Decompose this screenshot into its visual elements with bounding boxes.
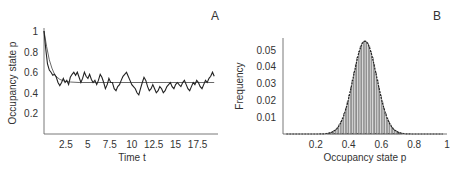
panel-a-x-tick-label: 7.5 bbox=[103, 139, 117, 150]
histogram-bar bbox=[373, 65, 375, 134]
panel-a-x-tick-label: 15 bbox=[170, 139, 182, 150]
histogram-bar bbox=[385, 113, 387, 134]
panel-b-y-tick-label: 0.01 bbox=[257, 112, 277, 123]
panel-a-chart: A 0.20.40.60.81 2.557.51012.51517.5 Time… bbox=[7, 9, 219, 163]
panel-a-x-label: Time t bbox=[118, 152, 146, 163]
panel-a-x-tick-label: 12.5 bbox=[144, 139, 164, 150]
histogram-bar bbox=[349, 95, 351, 134]
histogram-bar bbox=[360, 47, 362, 134]
histogram-bar bbox=[335, 129, 337, 134]
panel-b-chart: B 0.010.020.030.040.05 0.20.40.60.81 Occ… bbox=[234, 9, 450, 163]
histogram-bar bbox=[358, 51, 360, 134]
histogram-bar bbox=[363, 41, 365, 134]
histogram-bar bbox=[380, 95, 382, 134]
panel-a-x-tick-label: 5 bbox=[85, 139, 91, 150]
panel-a-y-tick-label: 0.6 bbox=[24, 67, 38, 78]
histogram-bar bbox=[355, 65, 357, 134]
panel-a-x-ticks: 2.557.51012.51517.5 bbox=[59, 139, 208, 150]
panel-b-x-tick-label: 1 bbox=[444, 139, 450, 150]
panel-a-y-tick-label: 0.8 bbox=[24, 47, 38, 58]
figure: A 0.20.40.60.81 2.557.51012.51517.5 Time… bbox=[0, 0, 455, 173]
histogram-bar bbox=[357, 58, 359, 134]
panel-b-x-label: Occupancy state p bbox=[324, 152, 407, 163]
panel-a-x-tick-label: 17.5 bbox=[188, 139, 208, 150]
panel-b-x-ticks: 0.20.40.60.81 bbox=[309, 139, 450, 150]
panel-b-x-tick-label: 0.6 bbox=[374, 139, 388, 150]
panel-b-x-tick-label: 0.2 bbox=[309, 139, 323, 150]
panel-a-mean-line bbox=[44, 31, 214, 83]
histogram-bar bbox=[378, 88, 380, 134]
histogram-bar bbox=[381, 102, 383, 134]
panel-b-x-tick-label: 0.4 bbox=[342, 139, 356, 150]
histogram-bar bbox=[354, 72, 356, 134]
panel-a-y-label: Occupancy state p bbox=[7, 41, 18, 124]
histogram-bar bbox=[375, 72, 377, 134]
panel-b-y-tick-label: 0.04 bbox=[257, 61, 277, 72]
panel-b-x-tick-label: 0.8 bbox=[407, 139, 421, 150]
panel-b-y-label: Frequency bbox=[234, 62, 245, 109]
histogram-bar bbox=[368, 47, 370, 134]
histogram-bar bbox=[347, 102, 349, 134]
histogram-bar bbox=[370, 51, 372, 134]
panel-a-label: A bbox=[211, 9, 219, 23]
histogram-bar bbox=[365, 41, 367, 134]
panel-b-label: B bbox=[433, 9, 441, 23]
histogram-bar bbox=[376, 80, 378, 134]
panel-a-x-tick-label: 10 bbox=[126, 139, 138, 150]
panel-a-x-tick-label: 2.5 bbox=[59, 139, 73, 150]
histogram-bar bbox=[367, 43, 369, 134]
panel-b-y-tick-label: 0.05 bbox=[257, 45, 277, 56]
panel-b-y-tick-label: 0.02 bbox=[257, 95, 277, 106]
histogram-bar bbox=[344, 113, 346, 134]
histogram-bar bbox=[372, 58, 374, 134]
histogram-bar bbox=[362, 43, 364, 134]
histogram-bar bbox=[352, 80, 354, 134]
panel-a-y-tick-label: 0.2 bbox=[24, 108, 38, 119]
panel-b-y-ticks: 0.010.020.030.040.05 bbox=[257, 45, 277, 124]
panel-a-y-tick-label: 1 bbox=[32, 26, 38, 37]
histogram-bar bbox=[350, 88, 352, 134]
panel-a-y-ticks: 0.20.40.60.81 bbox=[24, 26, 38, 119]
panel-a-y-tick-label: 0.4 bbox=[24, 88, 38, 99]
panel-b-y-tick-label: 0.03 bbox=[257, 78, 277, 89]
histogram-bar bbox=[393, 129, 395, 134]
panel-a-trajectory-line bbox=[44, 31, 214, 95]
panel-b-histogram-bars bbox=[327, 41, 402, 134]
